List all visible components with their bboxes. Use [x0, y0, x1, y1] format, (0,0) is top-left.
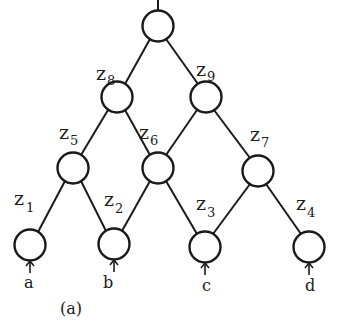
label-z3: z3 — [196, 192, 215, 220]
edge-z8-z5 — [81, 110, 108, 155]
node-z7 — [243, 156, 274, 187]
edge-root-z9 — [166, 39, 198, 84]
label-z6: z6 — [139, 121, 158, 148]
label-z9: z9 — [196, 58, 215, 84]
node-labels: z8 z9 z5 z6 z7 z1 z2 z3 z4 — [14, 58, 315, 220]
edge-z5-z2 — [81, 181, 106, 231]
arrow-up-icon — [26, 261, 34, 273]
arrow-up-icon — [201, 263, 209, 275]
label-z2: z2 — [104, 188, 123, 216]
node-z9 — [191, 82, 222, 113]
node-z1 — [15, 230, 46, 261]
edge-z6-z2 — [122, 181, 150, 231]
node-root — [143, 11, 174, 42]
edge-z5-z1 — [38, 181, 65, 232]
node-z5 — [58, 153, 89, 184]
label-z5: z5 — [59, 121, 78, 148]
arrow-up-icon — [110, 260, 118, 272]
input-label-d: d — [305, 276, 315, 295]
edge-z9-z7 — [214, 110, 250, 158]
node-z6 — [143, 153, 174, 184]
edge-z7-z3 — [213, 184, 250, 234]
label-z7: z7 — [250, 123, 269, 150]
edge-root-z8 — [125, 39, 150, 84]
edge-z9-z6 — [166, 110, 197, 155]
arrow-up-icon — [305, 263, 313, 275]
label-z4: z4 — [296, 192, 315, 220]
label-z8: z8 — [96, 62, 115, 88]
input-label-a: a — [24, 273, 34, 292]
node-z4 — [294, 232, 325, 263]
figure-caption: (a) — [60, 299, 82, 318]
input-arrows — [26, 260, 313, 275]
node-z3 — [190, 232, 221, 263]
node-z2 — [99, 229, 130, 260]
label-z1: z1 — [14, 187, 34, 215]
input-labels: a b c d — [24, 273, 315, 295]
input-label-c: c — [202, 276, 211, 295]
input-label-b: b — [103, 273, 113, 292]
edge-z6-z3 — [166, 181, 197, 234]
tree-diagram: z8 z9 z5 z6 z7 z1 z2 z3 z4 a b c d — [0, 0, 344, 325]
